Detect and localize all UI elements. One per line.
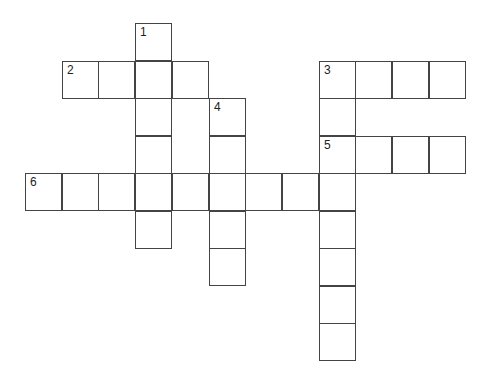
crossword-cell[interactable] (135, 173, 172, 211)
crossword-cell[interactable] (429, 136, 466, 174)
crossword-cell[interactable]: 3 (319, 61, 356, 99)
crossword-cell[interactable] (135, 98, 172, 136)
clue-number: 4 (214, 101, 221, 113)
crossword-cell[interactable] (135, 61, 172, 99)
crossword-cell[interactable] (135, 211, 172, 249)
clue-number: 5 (324, 139, 331, 151)
crossword-cell[interactable] (355, 61, 392, 99)
crossword-cell[interactable] (319, 286, 356, 324)
crossword-cell[interactable] (319, 323, 356, 361)
clue-number: 6 (30, 176, 37, 188)
crossword-cell[interactable] (209, 173, 246, 211)
crossword-cell[interactable] (209, 211, 246, 249)
crossword-cell[interactable] (98, 173, 135, 211)
crossword-cell[interactable] (98, 61, 135, 99)
crossword-cell[interactable] (62, 173, 99, 211)
clue-number: 3 (324, 64, 331, 76)
crossword-cell[interactable] (355, 136, 392, 174)
crossword-cell[interactable] (392, 136, 429, 174)
crossword-cell[interactable] (319, 98, 356, 136)
crossword-cell[interactable]: 2 (62, 61, 99, 99)
crossword-cell[interactable] (319, 173, 356, 211)
crossword-cell[interactable]: 4 (209, 98, 246, 136)
clue-number: 1 (140, 26, 147, 38)
crossword-cell[interactable] (172, 61, 209, 99)
crossword-cell[interactable]: 5 (319, 136, 356, 174)
crossword-cell[interactable] (392, 61, 429, 99)
crossword-cell[interactable] (429, 61, 466, 99)
crossword-cell[interactable] (135, 136, 172, 174)
crossword-cell[interactable] (319, 248, 356, 286)
clue-number: 2 (67, 64, 74, 76)
crossword-cell[interactable] (209, 248, 246, 286)
crossword-cell[interactable] (172, 173, 209, 211)
crossword-cell[interactable] (209, 136, 246, 174)
crossword-cell[interactable] (282, 173, 319, 211)
crossword-cell[interactable]: 6 (25, 173, 62, 211)
crossword-cell[interactable] (245, 173, 282, 211)
crossword-cell[interactable]: 1 (135, 23, 172, 61)
crossword-cell[interactable] (319, 211, 356, 249)
crossword-grid: 123456 (0, 0, 488, 382)
